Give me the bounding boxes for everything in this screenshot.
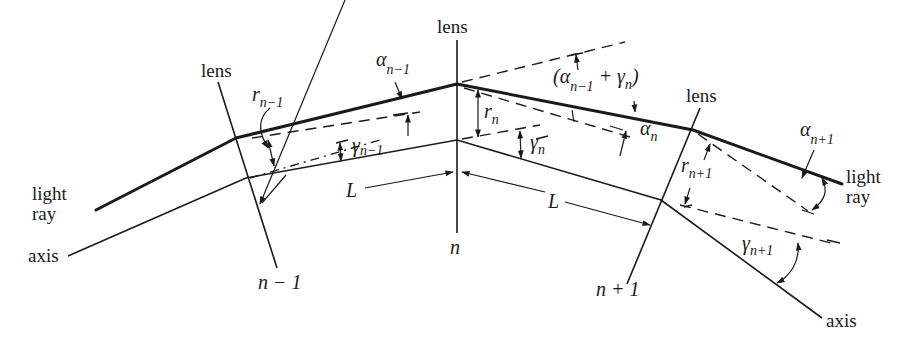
lens-ray-diagram: lens lens lens light ray light ray axis … <box>0 0 919 345</box>
spacing-left-arrow-a <box>262 175 286 203</box>
r-n-plus-1-lower-arrow <box>685 188 690 204</box>
spacing-label-right: L <box>547 190 559 212</box>
alpha-n-minus-1-arrow <box>395 82 402 99</box>
alpha-n-plus-1-angle-arc <box>812 178 825 210</box>
light-ray-label-right-line2: ray <box>846 186 871 207</box>
lens-label-right: lens <box>686 85 717 106</box>
gamma-n-label: γn <box>530 131 545 157</box>
spacing-label-left: L <box>345 179 357 201</box>
light-ray-label-left-line2: ray <box>32 203 57 224</box>
gamma-n-minus-1-arrow <box>340 143 341 161</box>
alpha-gamma-sum-arrow <box>576 55 578 70</box>
axis-parallel-dashed-left <box>252 112 420 138</box>
axis-parallel-dashed-right <box>698 134 808 211</box>
lens-index-right: n + 1 <box>596 278 640 300</box>
lens-label-center: lens <box>437 16 468 37</box>
r-n-minus-1-label: rn−1 <box>252 83 283 110</box>
r-n-label: rn <box>484 100 499 127</box>
r-n-plus-1-upper-arrow <box>704 144 710 160</box>
r-n-plus-1-label: rn+1 <box>681 154 712 181</box>
axis-label-left: axis <box>28 245 59 266</box>
alpha-n-plus-1-label: αn+1 <box>800 118 834 147</box>
spacing-left-dim-line-b <box>365 172 453 188</box>
tick <box>336 140 348 143</box>
lens-index-center: n <box>450 236 460 258</box>
gamma-n-minus-1-label: γn−1 <box>352 134 383 158</box>
light-ray-label-left-line1: light <box>32 183 68 204</box>
light-ray-label-right-line1: light <box>846 166 882 187</box>
axis-extension-dashed-right <box>680 205 835 244</box>
gamma-n-plus-1-label: γn+1 <box>742 232 773 258</box>
alpha-gamma-sum-label: (αn−1 + γn) <box>553 65 639 94</box>
light-ray <box>96 84 842 210</box>
tick <box>610 126 623 130</box>
lens-label-left: lens <box>201 60 232 81</box>
alpha-n-minus-1-label: αn−1 <box>376 48 410 77</box>
alpha-n-upper-arrow <box>634 101 635 112</box>
gamma-n-plus-1-angle-arc <box>777 243 798 283</box>
axis-label-right: axis <box>826 310 857 331</box>
gamma-n-arrow <box>520 131 521 158</box>
lens-index-left: n − 1 <box>258 271 302 293</box>
lens-n-plus-1-line <box>627 108 700 284</box>
axis-extension-dashed-center <box>462 125 540 139</box>
spacing-right-dim-line-b <box>565 202 650 225</box>
r-n-minus-1-arrow <box>268 140 274 166</box>
spacing-right-dim-line-a <box>462 172 545 192</box>
